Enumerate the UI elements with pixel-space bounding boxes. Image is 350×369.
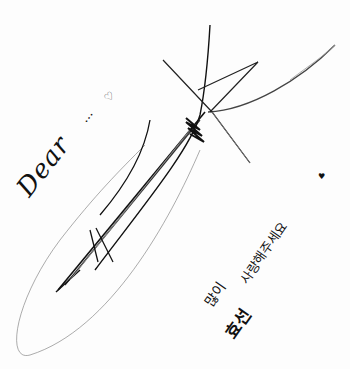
signature-strokes (0, 0, 350, 369)
signature-canvas: Dear ... ♡ 사랑해주세요 ♥ 많이 효선 (0, 0, 350, 369)
small-heart-icon: ♥ (318, 172, 325, 181)
